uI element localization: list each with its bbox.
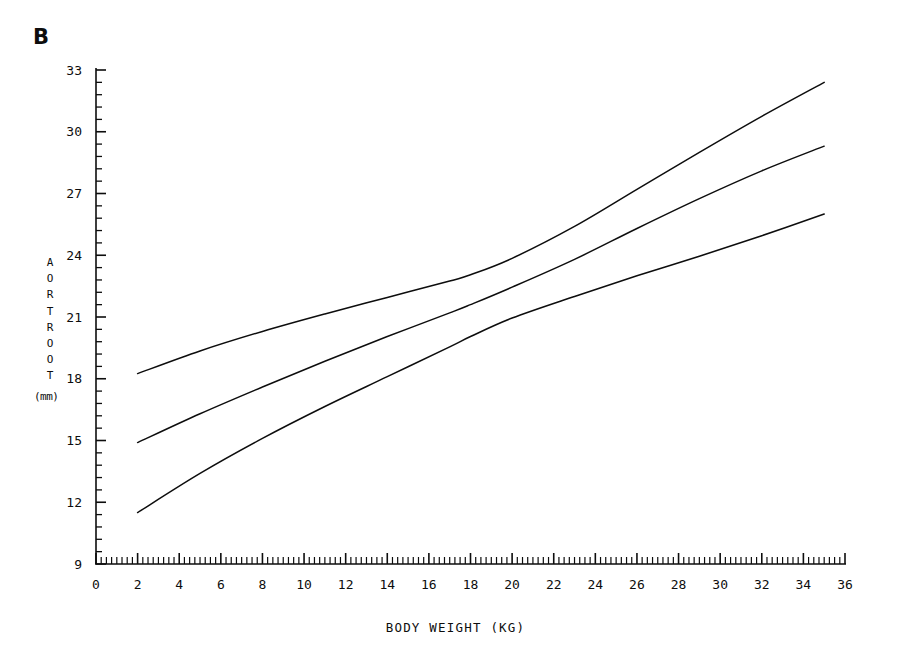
panel-label: B bbox=[33, 27, 50, 48]
x-axis-tick-label: 30 bbox=[700, 578, 740, 591]
curve-upper-limit bbox=[138, 82, 825, 373]
data-curves bbox=[138, 82, 825, 512]
y-axis-tick-label: 9 bbox=[48, 558, 82, 571]
y-axis-tick-label: 24 bbox=[48, 249, 82, 262]
x-axis-tick-label: 8 bbox=[242, 578, 282, 591]
x-axis-tick-label: 18 bbox=[451, 578, 491, 591]
x-axis-tick-label: 2 bbox=[118, 578, 158, 591]
x-axis-tick-label: 6 bbox=[201, 578, 241, 591]
y-axis-tick-label: 30 bbox=[48, 125, 82, 138]
plot-area bbox=[0, 0, 911, 665]
x-axis-major-ticks bbox=[96, 553, 845, 564]
axes bbox=[95, 68, 846, 564]
y-axis-tick-label: 12 bbox=[48, 496, 82, 509]
x-axis-tick-label: 14 bbox=[367, 578, 407, 591]
x-axis-tick-label: 26 bbox=[617, 578, 657, 591]
y-axis-tick-label: 33 bbox=[48, 64, 82, 77]
y-axis-label-char: R bbox=[42, 287, 58, 303]
y-axis-label-char: O bbox=[42, 336, 58, 352]
x-axis-tick-label: 16 bbox=[409, 578, 449, 591]
x-axis-tick-label: 34 bbox=[783, 578, 823, 591]
x-axis-tick-label: 10 bbox=[284, 578, 324, 591]
x-axis-tick-label: 36 bbox=[825, 578, 865, 591]
y-axis-label-char: O bbox=[42, 271, 58, 287]
x-axis-tick-label: 12 bbox=[326, 578, 366, 591]
y-axis-tick-label: 15 bbox=[48, 434, 82, 447]
y-axis-label-char: O bbox=[42, 352, 58, 368]
x-axis-tick-label: 0 bbox=[76, 578, 116, 591]
curve-mean bbox=[138, 146, 825, 442]
x-axis-tick-label: 28 bbox=[659, 578, 699, 591]
y-axis-tick-label: 27 bbox=[48, 187, 82, 200]
x-axis-tick-label: 4 bbox=[159, 578, 199, 591]
y-axis-unit: (mm) bbox=[34, 390, 59, 403]
x-axis-label: BODY WEIGHT (KG) bbox=[0, 620, 911, 635]
x-axis-tick-label: 20 bbox=[492, 578, 532, 591]
y-axis-tick-label: 18 bbox=[48, 372, 82, 385]
figure-panel-b: B A O R T R O O T (mm) BODY WEIGHT (KG) … bbox=[0, 0, 911, 665]
y-axis-tick-label: 21 bbox=[48, 311, 82, 324]
x-axis-tick-label: 24 bbox=[575, 578, 615, 591]
x-axis-tick-label: 32 bbox=[742, 578, 782, 591]
curve-lower-limit bbox=[138, 214, 825, 512]
x-axis-tick-label: 22 bbox=[534, 578, 574, 591]
